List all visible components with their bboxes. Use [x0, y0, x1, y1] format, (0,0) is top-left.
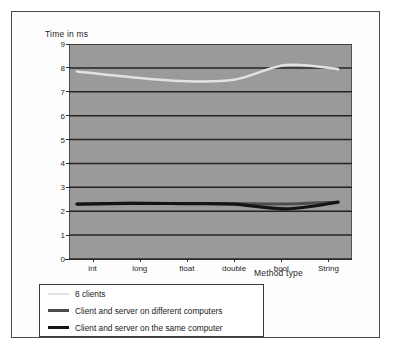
chart-canvas	[69, 44, 352, 259]
x-tick-label: float	[179, 264, 194, 273]
legend-item[interactable]: Client and server on different computers	[40, 302, 263, 319]
y-tick-mark	[66, 163, 69, 164]
x-axis-title: Method type	[254, 268, 303, 278]
plot-area	[69, 44, 352, 259]
y-tick-mark	[66, 44, 69, 45]
y-tick-mark	[66, 115, 69, 116]
y-tick-mark	[66, 211, 69, 212]
legend-color-swatch	[48, 309, 69, 312]
y-tick-mark	[66, 67, 69, 68]
legend-label: Client and server on the same computer	[75, 323, 223, 333]
legend-label: Client and server on different computers	[75, 306, 222, 316]
x-tick-label: double	[222, 264, 246, 273]
y-tick-mark	[66, 91, 69, 92]
y-tick-label: 7	[51, 87, 65, 96]
y-tick-label: 0	[51, 255, 65, 264]
y-tick-label: 9	[51, 40, 65, 49]
y-axis-title: Time in ms	[45, 29, 88, 39]
y-tick-mark	[66, 139, 69, 140]
y-tick-label: 5	[51, 135, 65, 144]
y-tick-label: 8	[51, 63, 65, 72]
y-tick-mark	[66, 187, 69, 188]
chart-figure: Time in ms 0123456789 intlongfloatdouble…	[11, 11, 380, 338]
y-tick-label: 4	[51, 159, 65, 168]
legend-color-swatch	[48, 326, 69, 329]
y-tick-label: 3	[51, 183, 65, 192]
legend-item[interactable]: 8 clients	[40, 285, 263, 302]
x-tick-label: String	[318, 264, 339, 273]
y-tick-mark	[66, 235, 69, 236]
x-tick-label: int	[88, 264, 96, 273]
legend-label: 8 clients	[75, 289, 105, 299]
y-tick-label: 6	[51, 111, 65, 120]
legend-color-swatch	[48, 293, 69, 295]
y-tick-label: 2	[51, 207, 65, 216]
legend-item[interactable]: Client and server on the same computer	[40, 319, 263, 336]
x-axis-line	[65, 259, 352, 260]
chart-legend: 8 clientsClient and server on different …	[39, 284, 264, 337]
y-tick-label: 1	[51, 231, 65, 240]
x-tick-label: long	[132, 264, 147, 273]
